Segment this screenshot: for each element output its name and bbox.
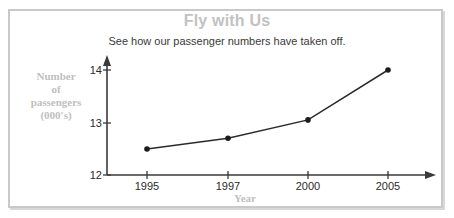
data-point-1995: [144, 146, 150, 152]
x-axis-arrowhead: [425, 171, 436, 179]
data-line-passengers: [147, 70, 388, 149]
plot-area: [0, 0, 454, 218]
data-point-2000: [305, 117, 311, 123]
data-point-2005: [385, 67, 391, 73]
chart-screenshot: Fly with Us See how our passenger number…: [0, 0, 454, 218]
data-point-1997: [225, 135, 231, 141]
y-axis-arrowhead: [103, 55, 111, 66]
